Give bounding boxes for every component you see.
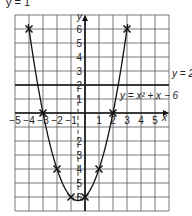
axes (15, 15, 169, 211)
svg-text:4: 4 (76, 164, 82, 175)
y-axis-label: y (76, 11, 83, 22)
svg-text:2: 2 (76, 136, 82, 147)
svg-text:5: 5 (76, 38, 82, 49)
svg-text:3: 3 (76, 150, 82, 161)
svg-text:4: 4 (138, 115, 144, 126)
curve-label: y = x² + x − 6 (119, 90, 179, 101)
svg-text:1: 1 (76, 94, 82, 105)
svg-text:6: 6 (76, 24, 82, 35)
graph: y = 1 −5−4−3−2−11234565432123456 y = 2 y… (0, 0, 192, 216)
x-axis-label: x (161, 112, 168, 123)
svg-text:−4: −4 (23, 115, 35, 126)
svg-text:5: 5 (152, 115, 158, 126)
svg-text:−1: −1 (65, 115, 77, 126)
line-label: y = 2 (171, 68, 192, 79)
svg-text:5: 5 (76, 178, 82, 189)
svg-text:3: 3 (76, 66, 82, 77)
svg-text:−5: −5 (9, 115, 21, 126)
svg-text:4: 4 (76, 52, 82, 63)
svg-text:3: 3 (124, 115, 130, 126)
svg-text:−2: −2 (51, 115, 63, 126)
partial-title: y = 1 (6, 0, 30, 8)
svg-text:1: 1 (96, 115, 102, 126)
